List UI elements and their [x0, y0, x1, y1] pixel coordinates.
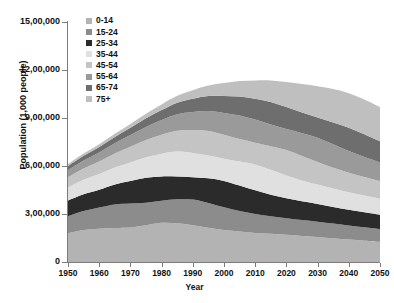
x-tick-mark: [193, 263, 194, 267]
legend-item[interactable]: 55-64: [86, 71, 118, 82]
legend-item-label: 65-74: [96, 83, 118, 92]
x-tick-mark: [318, 263, 319, 267]
legend-swatch-icon: [86, 18, 92, 24]
y-tick-label: 3,00,000: [2, 209, 60, 218]
legend: 0-1415-2425-3435-4445-5455-6465-7475+: [86, 15, 118, 105]
legend-item-label: 25-34: [96, 39, 118, 48]
y-tick-mark: [62, 70, 67, 71]
x-tick-mark: [255, 263, 256, 267]
legend-swatch-icon: [86, 62, 92, 68]
x-tick-mark: [99, 263, 100, 267]
legend-item[interactable]: 65-74: [86, 82, 118, 93]
legend-swatch-icon: [86, 40, 92, 46]
x-tick-mark: [286, 263, 287, 267]
x-tick-mark: [224, 263, 225, 267]
x-tick-mark: [130, 263, 131, 267]
y-tick-label: 9,00,000: [2, 113, 60, 122]
legend-swatch-icon: [86, 51, 92, 57]
x-tick-mark: [68, 263, 69, 267]
legend-item-label: 45-54: [96, 61, 118, 70]
x-tick-label: 2050: [360, 268, 394, 278]
y-tick-mark: [62, 118, 67, 119]
legend-item-label: 35-44: [96, 50, 118, 59]
y-tick-mark: [62, 214, 67, 215]
x-axis-title: Year: [0, 282, 389, 292]
legend-item-label: 0-14: [96, 16, 113, 25]
legend-swatch-icon: [86, 85, 92, 91]
y-tick-label: 12,00,000: [2, 65, 60, 74]
y-tick-mark: [62, 22, 67, 23]
legend-item-label: 75+: [96, 95, 110, 104]
x-tick-mark: [349, 263, 350, 267]
legend-item-label: 15-24: [96, 28, 118, 37]
y-tick-mark: [62, 262, 67, 263]
legend-item[interactable]: 35-44: [86, 49, 118, 60]
x-tick-mark: [162, 263, 163, 267]
y-tick-label: 0: [2, 257, 60, 266]
legend-item-label: 55-64: [96, 72, 118, 81]
legend-item[interactable]: 45-54: [86, 60, 118, 71]
legend-item[interactable]: 15-24: [86, 26, 118, 37]
y-tick-label: 15,00,000: [2, 17, 60, 26]
legend-item[interactable]: 0-14: [86, 15, 118, 26]
y-tick-mark: [62, 166, 67, 167]
legend-swatch-icon: [86, 74, 92, 80]
y-tick-label: 6,00,000: [2, 161, 60, 170]
legend-swatch-icon: [86, 96, 92, 102]
x-tick-mark: [380, 263, 381, 267]
legend-item[interactable]: 75+: [86, 93, 118, 104]
legend-swatch-icon: [86, 29, 92, 35]
legend-item[interactable]: 25-34: [86, 37, 118, 48]
